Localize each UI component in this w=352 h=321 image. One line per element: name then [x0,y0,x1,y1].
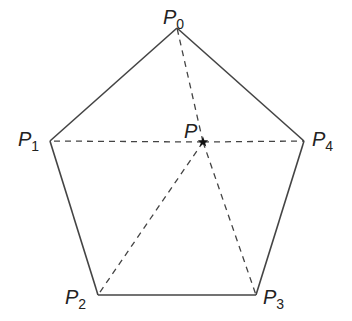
vertex-label-p3: P3 [263,286,284,312]
edge-p1-p2 [50,141,98,295]
star-icon [198,137,208,147]
dashed-p-p3 [203,142,256,295]
vertex-label-p4: P4 [312,128,333,154]
interior-point-label: P [184,120,198,142]
dashed-p-p4 [203,141,304,142]
vertex-label-p1: P1 [18,128,39,154]
interior-point-marker [198,137,208,147]
vertex-label-p2: P2 [65,286,86,312]
dashed-segments [50,28,304,295]
pentagon-edges [50,28,304,295]
dashed-p-p2 [98,142,203,295]
edge-p0-p1 [50,28,177,141]
dashed-p-p1 [50,141,203,142]
edge-p3-p4 [256,141,304,295]
pentagon-diagram: P0 P1 P2 P3 P4 P [0,0,352,321]
vertex-label-p0: P0 [163,6,184,32]
